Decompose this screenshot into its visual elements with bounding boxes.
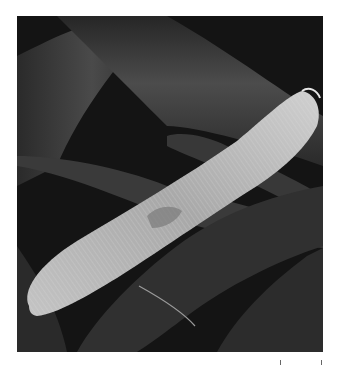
- micrograph-figure: [17, 16, 323, 352]
- scan-mark: [280, 360, 281, 365]
- scan-mark: [321, 360, 322, 365]
- paramecium-sem-image: [17, 16, 323, 352]
